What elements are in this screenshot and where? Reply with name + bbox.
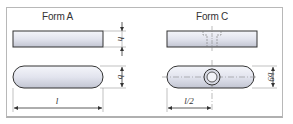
dim-b-label: b [116, 75, 126, 80]
form-a-top-view: b l [13, 66, 126, 112]
dim-l-label: l [56, 96, 59, 106]
form-c-side-view [167, 26, 257, 51]
form-a-side-view: h [13, 22, 126, 56]
form-c-top-view: b9 l/2 [162, 60, 277, 112]
dim-l-half-label: l/2 [184, 96, 194, 106]
technical-drawing: h b l b9 l/2 [0, 0, 293, 124]
dim-b9-label: b9 [266, 73, 276, 83]
dim-h-label: h [116, 37, 126, 42]
